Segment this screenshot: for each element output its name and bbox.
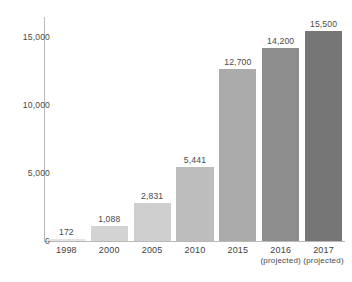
bar-value-label: 5,441 [162, 155, 227, 165]
bar-slot: 12,700 [219, 17, 256, 241]
x-axis-tick-label: 2017(projected) [296, 245, 351, 265]
bar-slot: 15,500 [305, 17, 342, 241]
x-label-year: 2015 [227, 245, 248, 255]
bar-slot: 14,200 [262, 17, 299, 241]
y-axis-tick-label: 15,000 [6, 32, 50, 42]
bar[interactable] [305, 31, 342, 241]
bar-slot: 1,088 [91, 17, 128, 241]
bar[interactable] [48, 239, 85, 241]
bar-value-label: 1,088 [77, 214, 142, 224]
x-label-year: 2016 [270, 245, 291, 255]
bar[interactable] [91, 226, 128, 241]
x-axis-line [44, 241, 345, 242]
bar-series: 1721,0882,8315,44112,70014,20015,500 [45, 17, 345, 241]
bar-slot: 5,441 [176, 17, 213, 241]
x-axis-tick-labels: 199820002005201020152016(projected)2017(… [45, 245, 345, 279]
bar[interactable] [219, 69, 256, 241]
bar-value-label: 172 [34, 227, 99, 237]
bar-value-label: 2,831 [120, 191, 185, 201]
y-axis-tick-label: 0 [6, 236, 50, 246]
bar-slot: 2,831 [134, 17, 171, 241]
bar-value-label: 14,200 [248, 36, 313, 46]
x-label-year: 2000 [99, 245, 120, 255]
bar-slot: 172 [48, 17, 85, 241]
x-label-year: 2005 [142, 245, 163, 255]
x-label-year: 1998 [56, 245, 77, 255]
bar-value-label: 15,500 [291, 19, 352, 29]
bar[interactable] [262, 48, 299, 241]
bar[interactable] [134, 203, 171, 241]
x-label-year: 2017 [313, 245, 334, 255]
x-label-projected-note: (projected) [296, 256, 351, 265]
bar-chart: 05,00010,00015,000 1721,0882,8315,44112,… [0, 0, 352, 282]
bar-value-label: 12,700 [205, 57, 270, 67]
y-axis-tick-label: 10,000 [6, 100, 50, 110]
y-axis-tick-label: 5,000 [6, 168, 50, 178]
x-label-year: 2010 [185, 245, 206, 255]
bar[interactable] [176, 167, 213, 241]
